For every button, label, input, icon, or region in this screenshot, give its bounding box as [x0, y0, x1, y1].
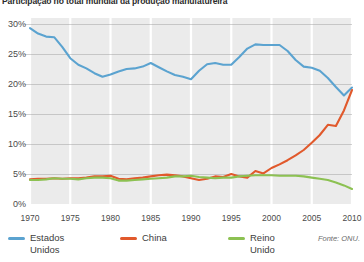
y-axis-tick-label: 15%	[0, 110, 26, 119]
y-axis-tick-label: 30%	[0, 20, 26, 29]
y-axis-tick-label: 0%	[0, 200, 26, 209]
x-axis-tick-label: 1970	[13, 214, 47, 223]
line-chart-svg	[0, 14, 364, 210]
legend-color-swatch	[228, 237, 245, 240]
source-note: Fonte: ONU.	[318, 234, 360, 243]
legend-item[interactable]: China	[120, 232, 167, 244]
x-axis-tick-label: 1975	[53, 214, 87, 223]
legend-item[interactable]: Estados Unidos	[8, 232, 76, 255]
y-axis-tick-label: 10%	[0, 140, 26, 149]
legend-color-swatch	[8, 237, 25, 240]
plot-area: 0%5%10%15%20%25%30% 19701975198019851990…	[0, 14, 364, 210]
y-axis-tick-label: 25%	[0, 50, 26, 59]
x-axis-tick-label: 1980	[94, 214, 128, 223]
legend-item-label: China	[142, 232, 167, 244]
legend-color-swatch	[120, 237, 137, 240]
chart-legend: Estados UnidosChinaReino Unido	[8, 232, 356, 262]
x-axis-tick-label: 1990	[174, 214, 208, 223]
legend-item[interactable]: Reino Unido	[228, 232, 296, 255]
x-axis-tick-label: 1985	[134, 214, 168, 223]
x-axis-tick-label: 2005	[295, 214, 329, 223]
y-axis-tick-label: 20%	[0, 80, 26, 89]
x-axis-tick-label: 2000	[255, 214, 289, 223]
x-axis-tick-label: 1995	[214, 214, 248, 223]
legend-item-label: Reino Unido	[250, 232, 296, 255]
y-axis-tick-label: 5%	[0, 170, 26, 179]
chart-title: Participação no total mundial da produçã…	[2, 0, 362, 8]
chart-figure: Participação no total mundial da produçã…	[0, 0, 364, 262]
legend-item-label: Estados Unidos	[30, 232, 76, 255]
x-axis-tick-label: 2010	[335, 214, 364, 223]
